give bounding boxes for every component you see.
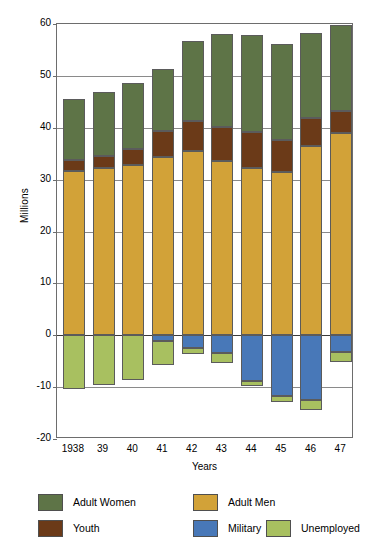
- bar-segment[interactable]: [330, 335, 352, 352]
- bar-segment[interactable]: [300, 33, 322, 118]
- bar-segment[interactable]: [330, 25, 352, 111]
- bar-segment[interactable]: [241, 168, 263, 336]
- bar-segment[interactable]: [182, 151, 204, 335]
- chart-figure: Millions -20-100102030405060 19383940414…: [0, 0, 368, 546]
- legend-item[interactable]: Adult Women: [38, 492, 136, 512]
- bar-segment[interactable]: [122, 165, 144, 336]
- legend-swatch: [193, 520, 218, 537]
- bar-segment[interactable]: [300, 146, 322, 335]
- bar-segment[interactable]: [93, 335, 115, 384]
- bar-group[interactable]: [241, 24, 263, 437]
- bar-segment[interactable]: [300, 335, 322, 399]
- y-tick-label: -10: [17, 380, 51, 391]
- bar-group[interactable]: [211, 24, 233, 437]
- legend-item[interactable]: Military: [193, 518, 261, 538]
- y-tick-label: 30: [17, 173, 51, 184]
- legend-label: Youth: [73, 522, 99, 534]
- x-axis-title: Years: [56, 461, 353, 472]
- bar-group[interactable]: [152, 24, 174, 437]
- bar-segment[interactable]: [271, 335, 293, 396]
- bar-segment[interactable]: [300, 118, 322, 146]
- bar-group[interactable]: [122, 24, 144, 437]
- bar-segment[interactable]: [271, 396, 293, 402]
- y-tick-label: 40: [17, 121, 51, 132]
- chart-legend: Adult WomenAdult MenYouthMilitaryUnemplo…: [38, 492, 358, 540]
- legend-swatch: [193, 494, 218, 511]
- bar-segment[interactable]: [330, 133, 352, 335]
- bar-segment[interactable]: [93, 168, 115, 336]
- bar-segment[interactable]: [122, 83, 144, 149]
- bar-segment[interactable]: [152, 131, 174, 157]
- bar-group[interactable]: [330, 24, 352, 437]
- bar-series-container: [57, 24, 352, 437]
- x-tick-label: 47: [315, 443, 365, 454]
- bar-group[interactable]: [63, 24, 85, 437]
- bar-segment[interactable]: [211, 353, 233, 363]
- bar-group[interactable]: [271, 24, 293, 437]
- bar-segment[interactable]: [182, 335, 204, 348]
- y-tick-label: -20: [17, 432, 51, 443]
- bar-segment[interactable]: [182, 41, 204, 121]
- legend-label: Adult Women: [73, 496, 136, 508]
- legend-label: Military: [228, 522, 261, 534]
- bar-segment[interactable]: [182, 121, 204, 151]
- bar-segment[interactable]: [63, 160, 85, 171]
- bar-segment[interactable]: [300, 400, 322, 410]
- y-tick-label: 20: [17, 225, 51, 236]
- y-tick-mark: [53, 439, 57, 440]
- bar-segment[interactable]: [152, 69, 174, 131]
- y-tick-label: 10: [17, 276, 51, 287]
- bar-segment[interactable]: [330, 352, 352, 361]
- bar-segment[interactable]: [211, 34, 233, 127]
- bar-group[interactable]: [93, 24, 115, 437]
- bar-segment[interactable]: [122, 335, 144, 380]
- bar-group[interactable]: [300, 24, 322, 437]
- bar-segment[interactable]: [241, 35, 263, 132]
- legend-item[interactable]: Adult Men: [193, 492, 275, 512]
- bar-segment[interactable]: [182, 348, 204, 354]
- bar-segment[interactable]: [271, 140, 293, 172]
- legend-label: Unemployed: [301, 522, 360, 534]
- legend-swatch: [38, 520, 63, 537]
- bar-segment[interactable]: [211, 335, 233, 353]
- y-tick-label: 0: [17, 328, 51, 339]
- bar-segment[interactable]: [152, 157, 174, 335]
- y-tick-label: 60: [17, 17, 51, 28]
- legend-swatch: [266, 520, 291, 537]
- bar-segment[interactable]: [63, 171, 85, 335]
- bar-segment[interactable]: [241, 335, 263, 381]
- bar-segment[interactable]: [271, 172, 293, 335]
- plot-area: -20-100102030405060: [56, 23, 353, 438]
- bar-segment[interactable]: [330, 111, 352, 133]
- bar-segment[interactable]: [93, 156, 115, 168]
- bar-segment[interactable]: [152, 341, 174, 365]
- y-tick-label: 50: [17, 69, 51, 80]
- legend-label: Adult Men: [228, 496, 275, 508]
- bar-segment[interactable]: [63, 335, 85, 389]
- legend-swatch: [38, 494, 63, 511]
- legend-item[interactable]: Youth: [38, 518, 99, 538]
- bar-segment[interactable]: [122, 149, 144, 165]
- legend-item[interactable]: Unemployed: [266, 518, 360, 538]
- bar-segment[interactable]: [241, 132, 263, 167]
- bar-segment[interactable]: [241, 381, 263, 386]
- bar-segment[interactable]: [63, 99, 85, 160]
- bar-segment[interactable]: [211, 127, 233, 161]
- bar-segment[interactable]: [271, 44, 293, 139]
- bar-segment[interactable]: [211, 161, 233, 335]
- bar-group[interactable]: [182, 24, 204, 437]
- bar-segment[interactable]: [93, 92, 115, 156]
